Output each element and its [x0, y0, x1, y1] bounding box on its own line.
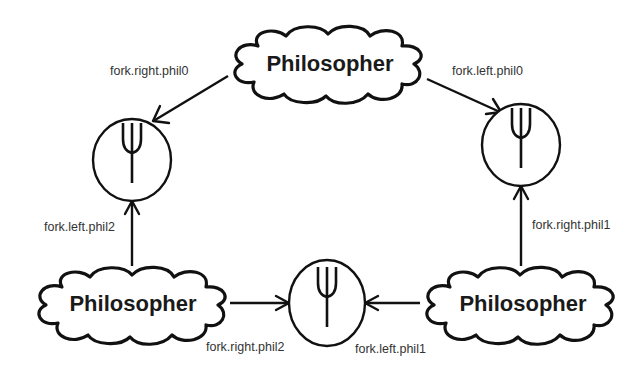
philosopher-node-bottom-left: Philosopher [39, 267, 225, 344]
edge-fork-left-phil0 [427, 79, 501, 114]
edge-fork-left-phil2 [125, 201, 139, 266]
edge-label-fork-left-phil2: fork.left.phil2 [44, 220, 115, 234]
edge-fork-right-phil1 [514, 186, 528, 266]
edge-fork-left-phil1 [365, 296, 420, 310]
edge-label-fork-right-phil1: fork.right.phil1 [532, 218, 611, 232]
edge-fork-right-phil2 [230, 296, 289, 310]
philosopher-label: Philosopher [69, 291, 197, 316]
edge-label-fork-left-phil0: fork.left.phil0 [452, 64, 523, 78]
philosopher-label: Philosopher [459, 291, 587, 316]
edge-label-fork-left-phil1: fork.left.phil1 [355, 342, 426, 356]
philosopher-node-bottom-right: Philosopher [427, 267, 613, 344]
philosopher-node-top: Philosopher [235, 26, 421, 103]
edge-label-fork-right-phil0: fork.right.phil0 [110, 64, 189, 78]
fork-node-right [482, 104, 560, 186]
fork-node-bottom [289, 260, 365, 346]
philosopher-label: Philosopher [266, 51, 394, 76]
edge-fork-right-phil0 [153, 76, 228, 123]
dining-philosophers-diagram: Philosopher Philosopher Philosopher fork… [0, 0, 642, 373]
edge-label-fork-right-phil2: fork.right.phil2 [206, 340, 285, 354]
fork-node-left [93, 119, 171, 201]
